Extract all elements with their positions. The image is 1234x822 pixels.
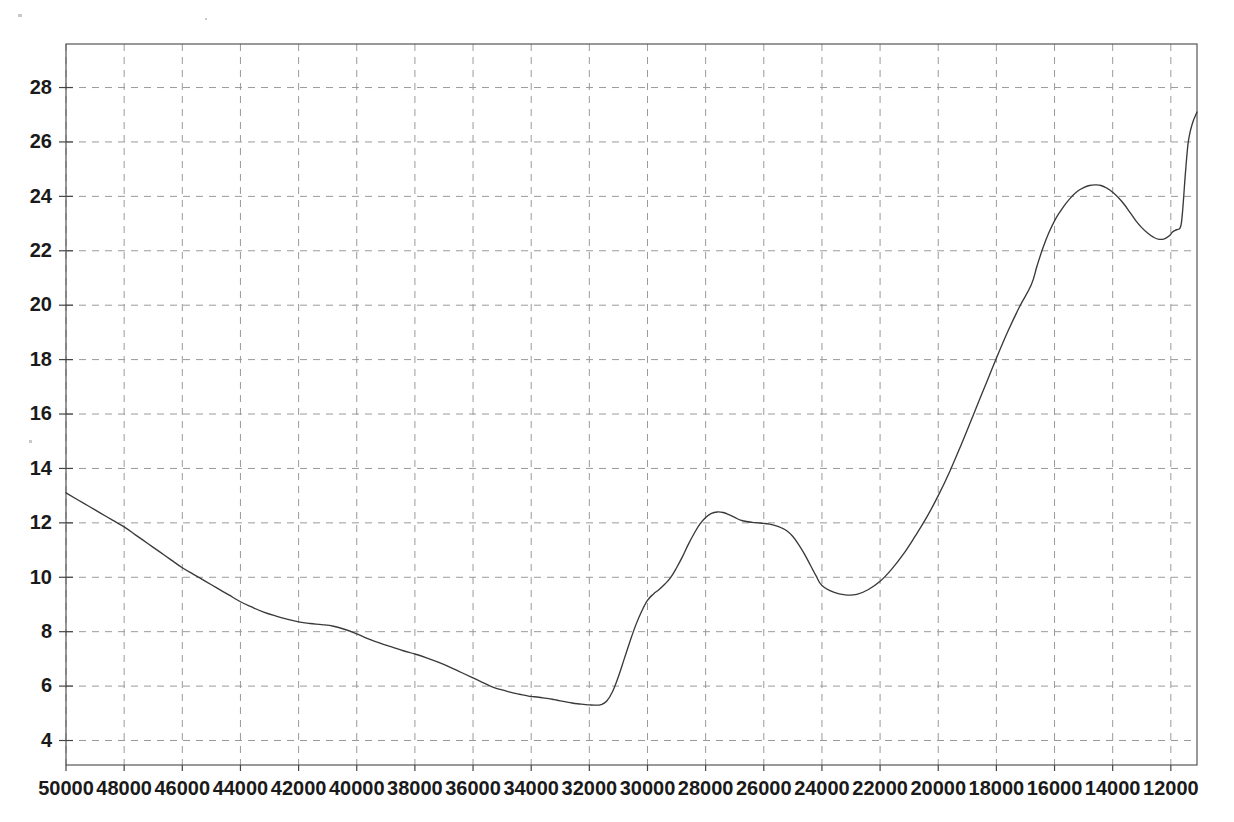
y-tick-label: 26 [30,130,52,152]
y-tick-label: 16 [30,402,52,424]
y-tick-label: 4 [41,729,53,751]
x-tick-label: 44000 [213,777,269,799]
x-tick-label: 34000 [503,777,559,799]
x-tick-label: 28000 [678,777,734,799]
x-tick-label: 22000 [852,777,908,799]
x-tick-label: 46000 [154,777,210,799]
y-tick-label: 12 [30,511,52,533]
x-tick-label: 24000 [794,777,850,799]
y-tick-label: 20 [30,293,52,315]
y-tick-label: 14 [30,457,53,479]
x-tick-label: 30000 [620,777,676,799]
x-tick-label: 40000 [329,777,385,799]
spectrum-curve [66,112,1197,705]
y-tick-label: 22 [30,239,52,261]
y-tick-label: 28 [30,76,52,98]
y-tick-label: 24 [30,185,53,207]
x-tick-label: 14000 [1085,777,1141,799]
y-tick-labels: 46810121416182022242628 [30,76,53,751]
x-tick-label: 20000 [910,777,966,799]
x-tickmarks [66,765,1171,771]
y-gridlines [66,88,1197,741]
x-tick-label: 16000 [1027,777,1083,799]
y-tick-label: 18 [30,348,52,370]
x-tick-label: 12000 [1143,777,1199,799]
x-tick-labels: 5000048000460004400042000400003800036000… [38,777,1198,799]
y-tick-label: 6 [41,674,52,696]
y-tick-label: 8 [41,620,52,642]
x-tick-label: 50000 [38,777,94,799]
y-tick-label: 10 [30,566,52,588]
x-tick-label: 32000 [562,777,618,799]
x-tick-label: 38000 [387,777,443,799]
chart-figure: 5000048000460004400042000400003800036000… [0,0,1234,822]
x-tick-label: 36000 [445,777,501,799]
x-tick-label: 26000 [736,777,792,799]
x-tick-label: 18000 [969,777,1025,799]
x-tick-label: 48000 [96,777,152,799]
spectrum-plot: 5000048000460004400042000400003800036000… [0,0,1234,822]
plot-frame [66,44,1197,765]
x-gridlines [66,44,1171,765]
x-tick-label: 42000 [271,777,327,799]
